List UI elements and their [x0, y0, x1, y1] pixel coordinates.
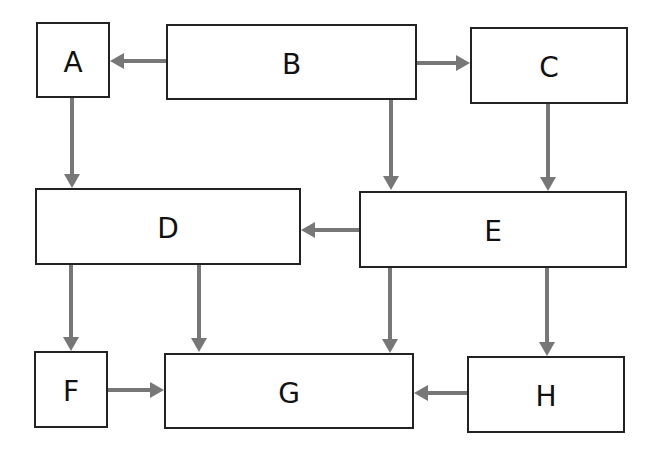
arrowhead-icon [110, 53, 124, 69]
arrow-e-to-h [539, 267, 555, 356]
arrow-b-to-a [110, 53, 167, 69]
arrow-b-to-c [416, 55, 470, 71]
arrowhead-icon [414, 385, 428, 401]
arrowhead-icon [191, 338, 207, 352]
arrow-f-to-g [107, 382, 164, 398]
arrow-e-to-d [301, 222, 360, 238]
node-g: G [165, 354, 413, 428]
arrowhead-icon [456, 55, 470, 71]
flowchart-diagram: ABCDEFGH [0, 0, 658, 453]
arrow-a-to-d [64, 97, 80, 188]
arrowhead-icon [63, 337, 79, 351]
node-h: H [468, 357, 624, 432]
node-label: E [484, 215, 502, 248]
arrow-h-to-g [414, 385, 468, 401]
arrow-e-to-g [382, 267, 398, 353]
arrow-d-to-g [191, 264, 207, 352]
nodes-layer: ABCDEFGH [35, 23, 627, 432]
arrowhead-icon [540, 177, 556, 191]
node-d: D [36, 189, 300, 264]
arrowhead-icon [301, 222, 315, 238]
arrowhead-icon [383, 176, 399, 190]
node-label: H [535, 380, 556, 413]
node-a: A [37, 23, 109, 97]
node-label: A [63, 46, 82, 79]
node-label: D [157, 212, 179, 245]
arrow-b-to-e [383, 99, 399, 190]
node-f: F [35, 352, 107, 427]
node-label: F [63, 375, 79, 408]
node-c: C [471, 28, 627, 103]
node-e: E [360, 192, 626, 267]
node-label: G [278, 377, 300, 410]
node-label: B [282, 48, 301, 81]
arrowhead-icon [382, 339, 398, 353]
arrow-d-to-f [63, 264, 79, 351]
arrowhead-icon [64, 174, 80, 188]
arrow-c-to-e [540, 103, 556, 191]
arrowhead-icon [150, 382, 164, 398]
arrowhead-icon [539, 342, 555, 356]
node-b: B [167, 25, 416, 99]
node-label: C [539, 51, 559, 84]
